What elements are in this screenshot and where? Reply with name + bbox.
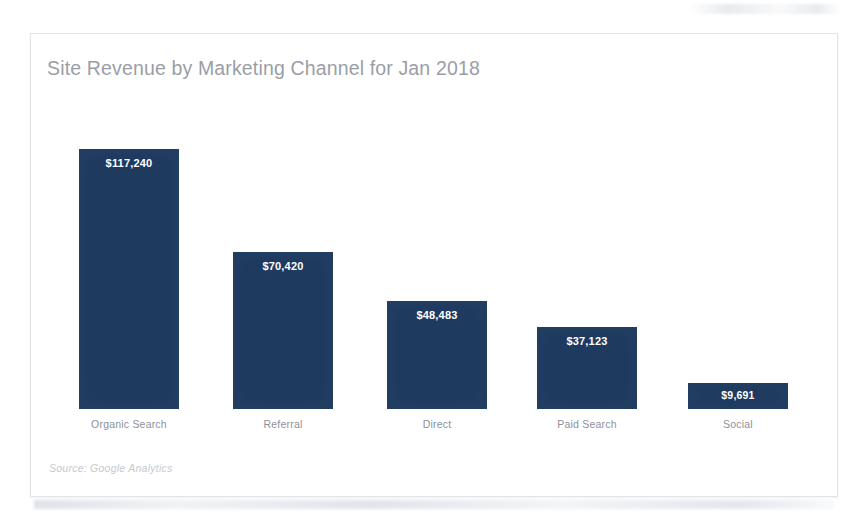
scan-artifact-bottom [34,500,834,509]
bar-referral[interactable]: $70,420 [233,252,333,409]
bar-group-referral: $70,420 Referral [233,252,333,409]
bar-organic-search[interactable]: $117,240 [79,149,179,409]
bar-chart-plot-area: $117,240 Organic Search $70,420 Referral… [31,34,837,496]
chart-card: Site Revenue by Marketing Channel for Ja… [30,33,838,497]
bar-paid-search[interactable]: $37,123 [537,327,637,409]
bar-value-label: $70,420 [233,260,333,272]
bar-group-direct: $48,483 Direct [387,301,487,409]
scan-artifact-top [690,4,840,14]
bar-category-label: Paid Search [519,418,655,430]
bar-value-label: $48,483 [387,309,487,321]
bar-group-paid-search: $37,123 Paid Search [537,327,637,409]
bar-value-label: $9,691 [688,389,788,401]
bar-value-label: $37,123 [537,335,637,347]
bar-group-organic-search: $117,240 Organic Search [79,149,179,409]
bar-value-label: $117,240 [79,157,179,169]
bar-group-social: $9,691 Social [688,383,788,409]
bar-category-label: Direct [369,418,505,430]
bar-category-label: Organic Search [61,418,197,430]
source-note: Source: Google Analytics [49,462,173,474]
bar-category-label: Social [670,418,806,430]
bar-social[interactable]: $9,691 [688,383,788,409]
bar-category-label: Referral [215,418,351,430]
bar-direct[interactable]: $48,483 [387,301,487,409]
